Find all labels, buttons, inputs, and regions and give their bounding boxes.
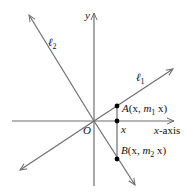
- x-axis-label: x-axis: [153, 124, 180, 136]
- point-x: [115, 119, 120, 124]
- x-coordinate-label: x: [120, 123, 126, 135]
- l1-label: ℓ1: [136, 71, 145, 86]
- origin-label: O: [83, 124, 91, 136]
- point-a: [115, 104, 120, 109]
- point-b-label: B(x, m2 x): [121, 144, 167, 159]
- y-axis-label: y: [84, 9, 90, 21]
- point-b: [115, 157, 120, 162]
- coordinate-diagram: y O x-axis x ℓ1 ℓ2 A(x, m1 x) B(x, m2 x): [0, 0, 188, 193]
- point-a-label: A(x, m1 x): [121, 102, 168, 117]
- line-l2: [29, 15, 94, 121]
